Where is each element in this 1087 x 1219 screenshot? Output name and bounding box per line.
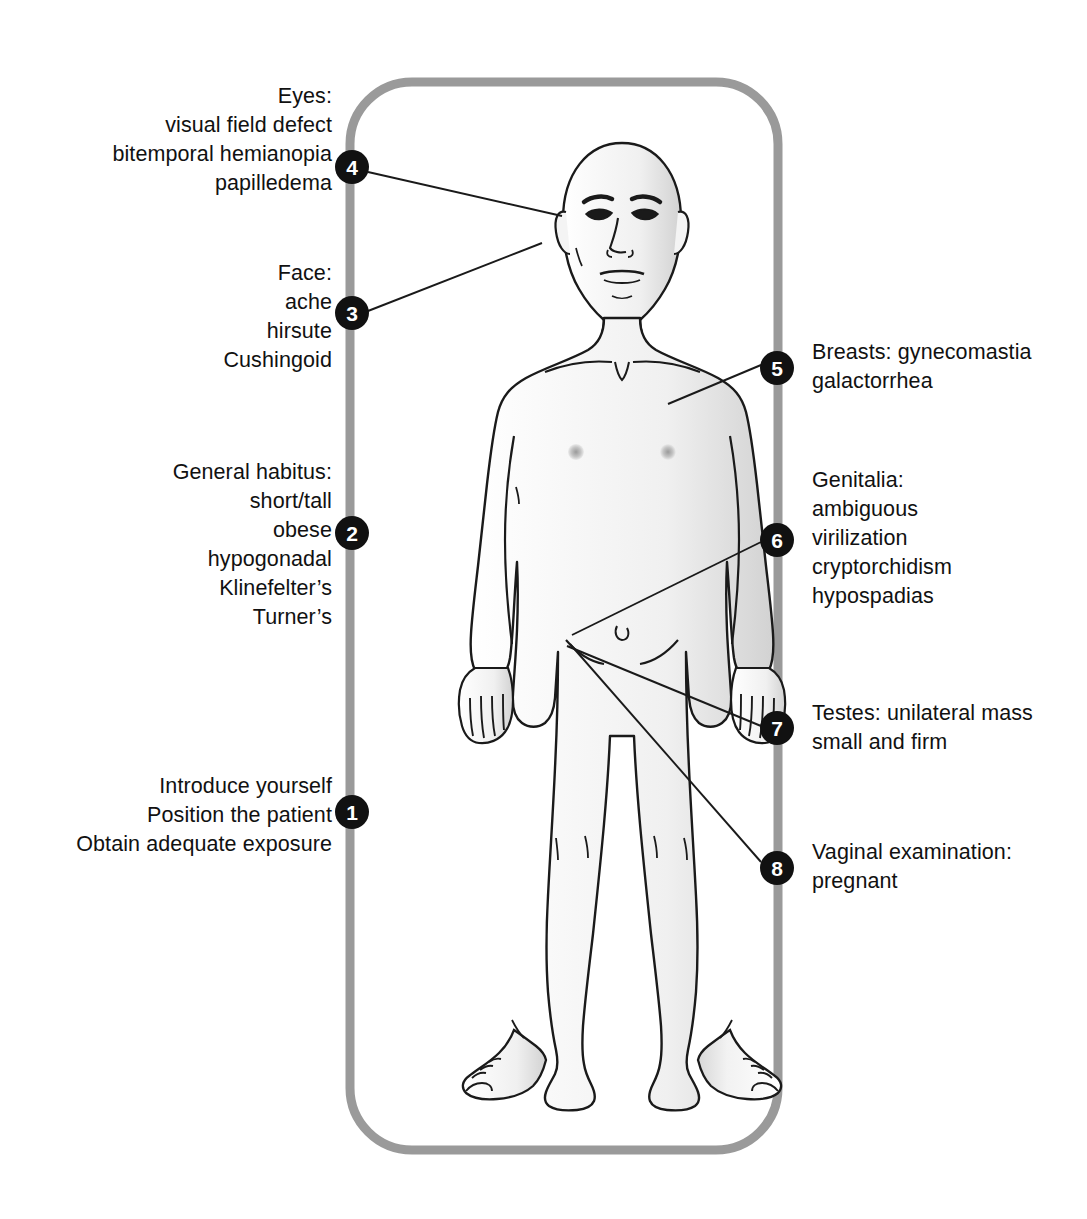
left-hand: [459, 668, 513, 743]
marker-7[interactable]: 7: [760, 711, 794, 745]
label-step-2: General habitus: short/tall obese hypogo…: [32, 458, 332, 632]
marker-number-label: 2: [346, 522, 358, 545]
marker-number-label: 7: [771, 717, 783, 740]
leader-line-4: [368, 172, 562, 216]
marker-number-label: 6: [771, 529, 783, 552]
left-foot: [463, 1030, 546, 1099]
marker-number-label: 8: [771, 857, 783, 880]
label-step-7: Testes: unilateral mass small and firm: [812, 699, 1084, 757]
head-outline: [563, 143, 681, 336]
marker-number-label: 1: [346, 801, 358, 824]
human-body-figure: [459, 140, 785, 1110]
label-step-1: Introduce yourself Position the patient …: [12, 772, 332, 859]
marker-6[interactable]: 6: [760, 523, 794, 557]
leader-line-3: [368, 243, 542, 311]
label-step-3: Face: ache hirsute Cushingoid: [32, 259, 332, 375]
marker-5[interactable]: 5: [760, 351, 794, 385]
label-step-5: Breasts: gynecomastia galactorrhea: [812, 338, 1084, 396]
marker-8[interactable]: 8: [760, 851, 794, 885]
marker-number-label: 3: [346, 302, 358, 325]
marker-3[interactable]: 3: [335, 296, 369, 330]
label-step-6: Genitalia: ambiguous virilization crypto…: [812, 466, 1084, 611]
left-nipple: [568, 444, 584, 460]
marker-2[interactable]: 2: [335, 516, 369, 550]
right-foot: [698, 1030, 781, 1099]
marker-4[interactable]: 4: [335, 150, 369, 184]
marker-number-label: 5: [771, 357, 783, 380]
marker-1[interactable]: 1: [335, 795, 369, 829]
torso-and-limbs: [471, 318, 774, 1110]
label-step-8: Vaginal examination: pregnant: [812, 838, 1084, 896]
diagram-page: 12345678 Eyes: visual field defect bitem…: [0, 0, 1087, 1219]
label-step-4: Eyes: visual field defect bitemporal hem…: [32, 82, 332, 198]
right-nipple: [660, 444, 676, 460]
marker-number-label: 4: [346, 156, 358, 179]
